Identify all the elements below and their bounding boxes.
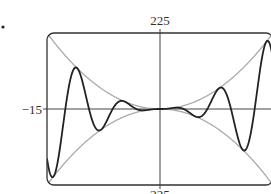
y-min-tick-label: 225 (150, 187, 170, 194)
series-line-lower-envelope (47, 109, 271, 185)
chart: 225 225 −15 (0, 0, 271, 194)
plot-area (43, 29, 271, 189)
y-max-tick-label: 225 (150, 13, 170, 28)
series-line-upper-envelope (47, 33, 271, 109)
x-min-tick-label: −15 (22, 102, 42, 117)
item-bullet (1, 25, 4, 28)
